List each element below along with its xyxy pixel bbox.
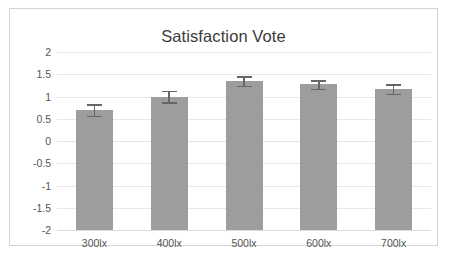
y-axis-tick-label: -1 — [42, 180, 51, 192]
x-axis-tick-label: 600lx — [306, 237, 331, 249]
error-bar-cap-upper — [311, 80, 326, 82]
x-axis-tick-label: 300lx — [82, 237, 107, 249]
error-bar-cap-lower — [311, 89, 326, 91]
y-axis-tick-label: -2 — [42, 224, 51, 236]
error-bar-line — [168, 91, 170, 103]
error-bar-cap-upper — [162, 91, 177, 93]
y-axis-tick-label: 0 — [45, 135, 51, 147]
bar-group[interactable]: 700lx — [375, 52, 412, 230]
error-bar-cap-lower — [87, 116, 102, 118]
error-bar-cap-lower — [162, 102, 177, 104]
gridline — [57, 230, 431, 231]
y-axis-tick-label: 1.5 — [36, 68, 51, 80]
x-axis-tick-label: 500lx — [231, 237, 256, 249]
bar[interactable] — [76, 110, 113, 230]
bar-group[interactable]: 500lx — [226, 52, 263, 230]
x-axis-tick-label: 400lx — [157, 237, 182, 249]
error-bar-cap-upper — [87, 104, 102, 106]
plot-area: 21.510.50-0.5-1-1.5-2300lx400lx500lx600l… — [57, 52, 431, 230]
bar[interactable] — [151, 97, 188, 231]
error-bar-cap-upper — [386, 84, 401, 86]
y-axis-tick-label: 2 — [45, 46, 51, 58]
error-bar-cap-lower — [386, 94, 401, 96]
chart-title: Satisfaction Vote — [10, 27, 437, 46]
error-bar-cap-upper — [237, 76, 252, 78]
y-axis-tick-label: -0.5 — [33, 157, 51, 169]
chart-frame: Satisfaction Vote 21.510.50-0.5-1-1.5-23… — [9, 8, 438, 246]
bar-group[interactable]: 600lx — [300, 52, 337, 230]
error-bar-cap-lower — [237, 86, 252, 88]
error-bar-line — [94, 104, 96, 116]
bar-group[interactable]: 400lx — [151, 52, 188, 230]
y-axis-tick-label: -1.5 — [33, 202, 51, 214]
y-axis-tick-label: 0.5 — [36, 113, 51, 125]
bar[interactable] — [300, 84, 337, 230]
bar-group[interactable]: 300lx — [76, 52, 113, 230]
x-axis-tick-label: 700lx — [381, 237, 406, 249]
y-axis-tick-label: 1 — [45, 91, 51, 103]
bar[interactable] — [375, 89, 412, 230]
bar[interactable] — [226, 81, 263, 230]
